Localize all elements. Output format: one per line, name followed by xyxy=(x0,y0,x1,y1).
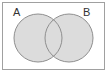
set-a-label: A xyxy=(13,6,21,18)
set-b-label: B xyxy=(83,6,90,18)
venn-diagram: A B xyxy=(0,0,107,74)
